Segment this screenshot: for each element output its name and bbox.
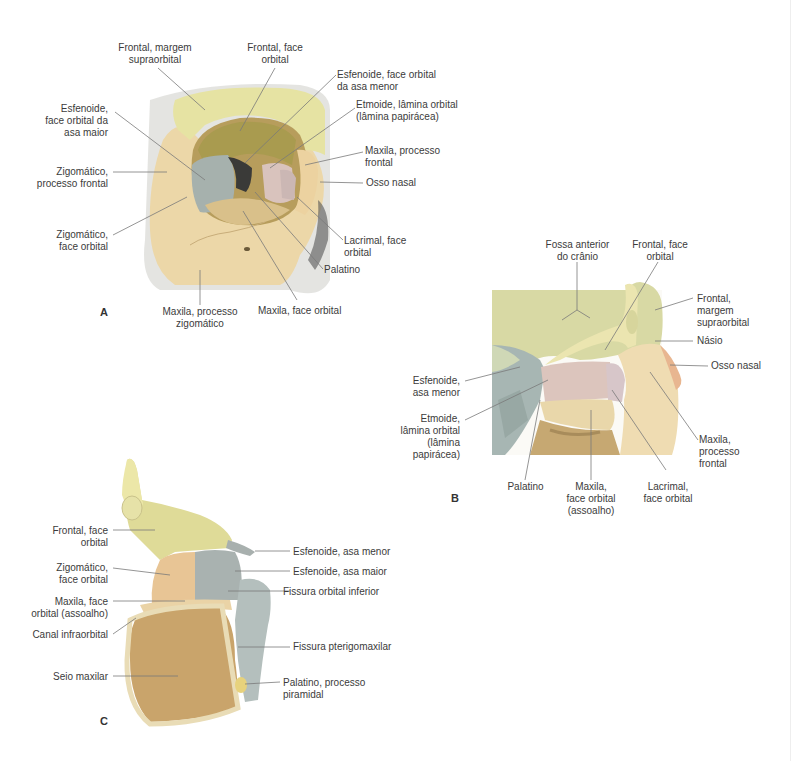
label-inferior-orbital-fissure: Fissura orbital inferior bbox=[283, 586, 423, 598]
label-palatine-pyramidal-process: Palatino, processo piramidal bbox=[283, 677, 403, 701]
label-sphenoid-lesser-wing-orbital-face: Esfenoide, face orbital da asa menor bbox=[337, 69, 467, 93]
label-maxilla-orbital-floor: Maxila, face orbital (assoalho) bbox=[0, 596, 108, 620]
label-maxilla-zygomatic-process: Maxila, processo zigomático bbox=[150, 306, 250, 330]
label-sphenoid-lesser-wing: Esfenoide, asa menor bbox=[293, 546, 423, 558]
figure-letter-c: C bbox=[100, 715, 108, 727]
label-maxilla-frontal-process: Maxila, processo frontal bbox=[699, 434, 769, 470]
label-ethmoid-orbital-lamina: Etmoide, lâmina orbital (lâmina papiráce… bbox=[356, 99, 496, 123]
label-palatine: Palatino bbox=[498, 481, 553, 493]
label-nasal-bone: Osso nasal bbox=[711, 360, 781, 372]
label-maxilla-frontal-process: Maxila, processo frontal bbox=[365, 145, 465, 169]
label-nasion: Násio bbox=[697, 335, 757, 347]
label-frontal-orbital-face: Frontal, face orbital bbox=[230, 42, 320, 66]
label-frontal-orbital-face: Frontal, face orbital bbox=[620, 239, 700, 263]
label-lacrimal-orbital-face: Lacrimal, face orbital bbox=[344, 235, 434, 259]
figure-b-illustration bbox=[492, 282, 681, 455]
label-ethmoid-orbital-lamina: Etmoide, lâmina orbital (lâmina papiráce… bbox=[380, 413, 460, 461]
label-nasal-bone: Osso nasal bbox=[366, 177, 446, 189]
figure-letter-b: B bbox=[451, 492, 459, 504]
figure-a-illustration bbox=[144, 84, 330, 293]
label-frontal-supraorbital-margin: Frontal, margem supraorbital bbox=[95, 42, 215, 66]
label-frontal-orbital-face: Frontal, face orbital bbox=[5, 525, 108, 549]
label-zygomatic-orbital-face: Zigomático, face orbital bbox=[5, 562, 108, 586]
label-anterior-cranial-fossa: Fossa anterior do crânio bbox=[535, 239, 620, 263]
label-zygomatic-frontal-process: Zigomático, processo frontal bbox=[5, 166, 108, 190]
label-sphenoid-lesser-wing: Esfenoide, asa menor bbox=[380, 375, 460, 399]
label-infraorbital-canal: Canal infraorbital bbox=[0, 629, 108, 641]
label-sphenoid-greater-wing-orbital-face: Esfenoide, face orbital da asa maior bbox=[10, 103, 108, 139]
label-maxilla-orbital-face: Maxila, face orbital bbox=[258, 305, 368, 317]
label-frontal-supraorbital-margin: Frontal, margem supraorbital bbox=[697, 293, 777, 329]
label-zygomatic-orbital-face: Zigomático, face orbital bbox=[10, 229, 108, 253]
label-maxillary-sinus: Seio maxilar bbox=[5, 671, 108, 683]
label-sphenoid-greater-wing: Esfenoide, asa maior bbox=[293, 566, 423, 578]
label-pterygomaxillary-fissure: Fissura pterigomaxilar bbox=[293, 641, 433, 653]
page-edge bbox=[790, 0, 791, 761]
label-lacrimal-orbital-face: Lacrimal, face orbital bbox=[630, 481, 706, 505]
label-palatine: Palatino bbox=[324, 264, 384, 276]
figure-letter-a: A bbox=[100, 306, 108, 318]
label-maxilla-orbital-floor: Maxila, face orbital (assoalho) bbox=[553, 481, 629, 517]
